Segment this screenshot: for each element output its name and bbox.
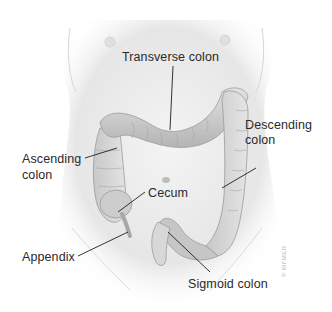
label-sigmoid-colon: Sigmoid colon: [188, 277, 268, 291]
label-descending-colon-line2: colon: [245, 133, 275, 147]
nipple-right: [220, 35, 230, 45]
label-descending-colon-line1: Descending: [245, 118, 312, 132]
nipple-left: [105, 37, 115, 47]
label-appendix: Appendix: [22, 250, 75, 264]
navel: [162, 177, 170, 183]
label-cecum: Cecum: [148, 186, 188, 200]
colon-anatomy-diagram: Transverse colon Descending colon Ascend…: [0, 0, 332, 312]
label-ascending-colon-line1: Ascending: [22, 152, 81, 166]
label-ascending-colon-line2: colon: [22, 168, 52, 182]
copyright-notice: © MFMER: [281, 245, 287, 277]
label-transverse-colon: Transverse colon: [122, 50, 219, 64]
